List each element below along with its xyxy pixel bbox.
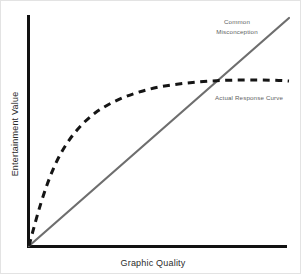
annotation-actual-response-curve: Actual Response Curve [215, 94, 284, 101]
annotation-common-misconception-line1: Common [224, 18, 250, 25]
chart-plot-area: Common Misconception Actual Response Cur… [1, 1, 301, 274]
series-line-actual-response [29, 80, 289, 246]
annotation-common-misconception-line2: Misconception [216, 28, 258, 35]
chart-figure: Common Misconception Actual Response Cur… [0, 0, 301, 274]
y-axis-label: Entertainment Value [10, 92, 20, 177]
series-line-common-misconception [29, 18, 289, 246]
x-axis-label: Graphic Quality [120, 258, 185, 268]
